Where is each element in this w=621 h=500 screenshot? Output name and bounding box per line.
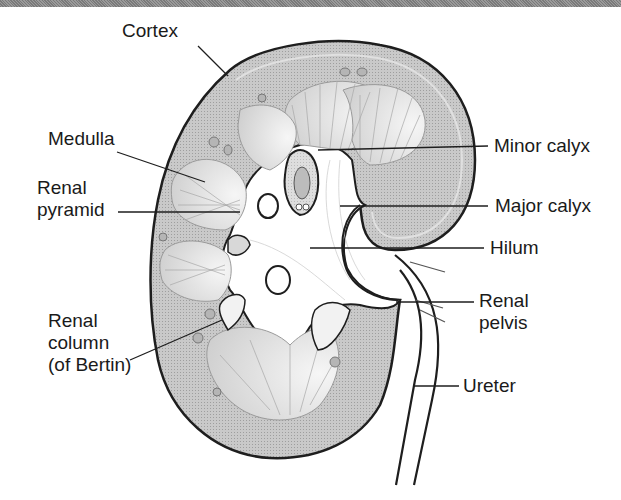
- ureter-tube: [395, 255, 438, 485]
- label-major-calyx: Major calyx: [495, 195, 591, 217]
- label-renal-pelvis: Renal pelvis: [479, 290, 529, 334]
- label-ureter: Ureter: [463, 375, 516, 397]
- label-hilum: Hilum: [490, 237, 539, 259]
- label-medulla: Medulla: [48, 128, 115, 150]
- leader-cortex: [198, 46, 228, 76]
- label-renal-column: Renal column (of Bertin): [48, 310, 131, 376]
- label-cortex: Cortex: [122, 20, 178, 42]
- label-minor-calyx: Minor calyx: [494, 135, 590, 157]
- label-renal-pyramid: Renal pyramid: [37, 177, 105, 221]
